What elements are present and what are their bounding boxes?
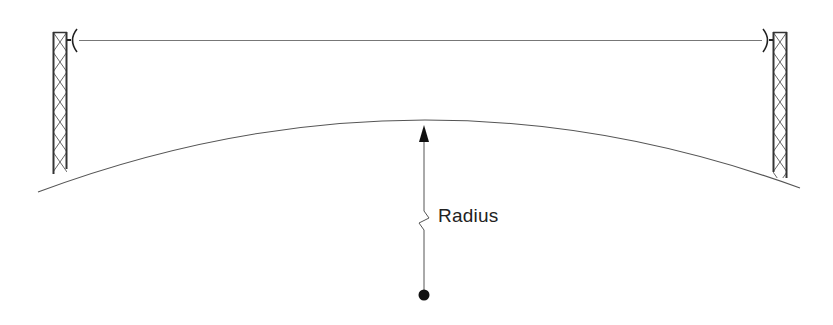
- earth-curve: [38, 120, 800, 192]
- right-tower: [773, 32, 787, 178]
- radius-label: Radius: [438, 205, 498, 227]
- left-antenna-icon: [67, 29, 77, 52]
- left-tower: [53, 32, 67, 174]
- right-antenna-icon: [763, 29, 773, 52]
- earth-center-point: [419, 290, 430, 301]
- earth-curvature-diagram: [0, 0, 833, 325]
- radius-arrow: [419, 125, 429, 292]
- arrow-head-icon: [419, 125, 429, 142]
